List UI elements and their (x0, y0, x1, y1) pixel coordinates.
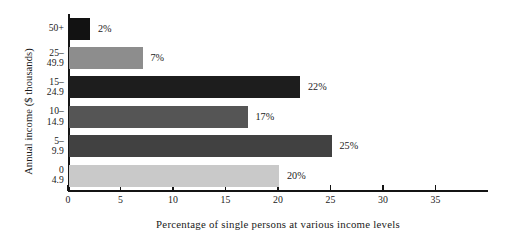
y-tick-label-line2: 9.9 (24, 146, 64, 156)
bar-chart: Annual income ($ thousands) 50+25–49.915… (0, 0, 508, 245)
x-axis-title: Percentage of single persons at various … (68, 218, 488, 230)
y-tick-label-line1: 5– (54, 135, 64, 146)
bar-value-label: 25% (340, 135, 359, 157)
x-tick-label-15: 15 (211, 194, 241, 205)
y-tick-label-25-49-9: 25–49.9 (24, 48, 64, 69)
bar-value-label: 2% (98, 18, 112, 40)
y-tick-label-15-24-9: 15–24.9 (24, 77, 64, 98)
x-tick-label-10: 10 (158, 194, 188, 205)
bar-0-4-9 (69, 165, 279, 187)
y-tick-label-line2: 14.9 (24, 117, 64, 127)
y-tick-label-line1: 50+ (49, 22, 64, 33)
y-tick-label-line1: 25– (49, 47, 64, 58)
x-tick-35 (435, 185, 436, 191)
y-tick-label-line2: 4.9 (24, 175, 64, 185)
x-tick-label-5: 5 (106, 194, 136, 205)
x-tick-30 (382, 185, 383, 191)
x-tick-label-35: 35 (421, 194, 451, 205)
bar-15-24-9 (69, 76, 300, 98)
bar-value-label: 7% (151, 47, 165, 69)
y-tick-label-line1: 15– (49, 76, 64, 87)
bar-value-label: 20% (287, 165, 306, 187)
y-axis-line (68, 14, 70, 190)
y-tick-label-10-14-9: 10–14.9 (24, 106, 64, 127)
x-tick-25 (330, 185, 331, 191)
bar-50+ (69, 18, 90, 40)
bar-5-9-9 (69, 135, 332, 157)
bar-value-label: 22% (308, 76, 327, 98)
bar-25-49-9 (69, 47, 143, 69)
y-tick-label-line1: 10– (49, 105, 64, 116)
y-axis-tick-labels: 50+25–49.915–24.910–14.95–9.904.9 (24, 14, 66, 190)
y-tick-label-0-4-9: 04.9 (24, 165, 64, 186)
y-tick-label-50+: 50+ (24, 23, 64, 33)
y-tick-label-line2: 49.9 (24, 58, 64, 68)
y-tick-label-line1: 0 (59, 164, 64, 175)
x-tick-label-30: 30 (368, 194, 398, 205)
bar-value-label: 17% (256, 106, 275, 128)
y-tick-label-line2: 24.9 (24, 87, 64, 97)
bar-10-14-9 (69, 106, 248, 128)
y-tick-label-5-9-9: 5–9.9 (24, 136, 64, 157)
x-tick-label-25: 25 (316, 194, 346, 205)
plot-area: 05101520253035 2%7%22%17%25%20% (68, 14, 488, 190)
x-tick-label-20: 20 (263, 194, 293, 205)
x-tick-label-0: 0 (53, 194, 83, 205)
